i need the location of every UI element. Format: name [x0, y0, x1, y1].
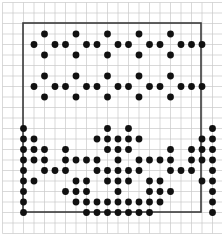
data-point	[31, 157, 38, 164]
data-point	[52, 41, 59, 48]
data-point	[125, 41, 132, 48]
data-point	[209, 199, 216, 206]
data-point	[209, 167, 216, 174]
data-point	[31, 83, 38, 90]
data-point	[83, 199, 90, 206]
data-point	[167, 188, 174, 195]
data-point	[136, 73, 143, 80]
data-point	[62, 188, 69, 195]
data-point	[83, 157, 90, 164]
data-point	[20, 125, 27, 132]
data-point	[104, 73, 111, 80]
data-point	[136, 31, 143, 38]
data-point	[199, 146, 206, 153]
data-point	[125, 178, 132, 185]
data-point	[73, 188, 80, 195]
data-point	[125, 209, 132, 216]
data-point	[94, 199, 101, 206]
data-point	[20, 157, 27, 164]
data-point	[125, 125, 132, 132]
data-point	[157, 178, 164, 185]
data-point	[41, 146, 48, 153]
data-point	[125, 146, 132, 153]
plot-background	[0, 0, 222, 234]
data-point	[115, 83, 122, 90]
data-point	[115, 41, 122, 48]
data-point	[146, 41, 153, 48]
data-point	[41, 94, 48, 101]
data-point	[41, 157, 48, 164]
data-point	[125, 136, 132, 143]
data-point	[73, 157, 80, 164]
data-point	[104, 167, 111, 174]
data-point	[20, 209, 27, 216]
data-point	[83, 41, 90, 48]
data-point	[136, 199, 143, 206]
data-point	[188, 167, 195, 174]
data-point	[31, 41, 38, 48]
data-point	[209, 209, 216, 216]
data-point	[157, 188, 164, 195]
data-point	[83, 188, 90, 195]
data-point	[73, 73, 80, 80]
data-point	[94, 41, 101, 48]
data-point	[136, 52, 143, 59]
data-point	[104, 209, 111, 216]
data-point	[209, 125, 216, 132]
data-point	[115, 167, 122, 174]
data-point	[104, 31, 111, 38]
data-point	[199, 178, 206, 185]
data-point	[136, 94, 143, 101]
data-point	[146, 188, 153, 195]
data-point	[157, 157, 164, 164]
data-point	[115, 136, 122, 143]
data-point	[209, 136, 216, 143]
data-point	[20, 136, 27, 143]
data-point	[115, 157, 122, 164]
data-point	[178, 83, 185, 90]
data-point	[199, 41, 206, 48]
data-point	[146, 209, 153, 216]
data-point	[125, 199, 132, 206]
data-point	[104, 178, 111, 185]
data-point	[41, 52, 48, 59]
data-point	[52, 83, 59, 90]
data-point	[73, 31, 80, 38]
data-point	[209, 178, 216, 185]
data-point	[62, 41, 69, 48]
data-point	[73, 52, 80, 59]
data-point	[94, 136, 101, 143]
data-point	[104, 136, 111, 143]
data-point	[115, 199, 122, 206]
data-point	[167, 52, 174, 59]
data-point	[167, 167, 174, 174]
data-point	[20, 178, 27, 185]
data-point	[31, 146, 38, 153]
data-point	[157, 83, 164, 90]
data-point	[94, 157, 101, 164]
data-point	[52, 167, 59, 174]
data-point	[209, 188, 216, 195]
data-point	[209, 157, 216, 164]
data-point	[83, 178, 90, 185]
data-point	[115, 209, 122, 216]
data-point	[188, 146, 195, 153]
data-point	[125, 83, 132, 90]
data-point	[146, 83, 153, 90]
data-point	[94, 83, 101, 90]
data-point	[104, 52, 111, 59]
data-point	[167, 94, 174, 101]
data-point	[178, 167, 185, 174]
data-point	[83, 209, 90, 216]
data-point	[136, 167, 143, 174]
data-point	[73, 178, 80, 185]
data-point	[125, 167, 132, 174]
data-point	[20, 199, 27, 206]
lattice-pattern-plot	[0, 0, 222, 234]
data-point	[62, 167, 69, 174]
data-point	[167, 73, 174, 80]
data-point	[136, 157, 143, 164]
data-point	[157, 41, 164, 48]
data-point	[83, 83, 90, 90]
data-point	[62, 157, 69, 164]
